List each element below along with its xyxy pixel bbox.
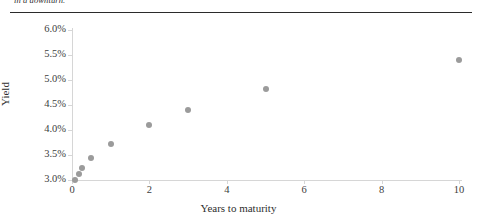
x-tick-label: 10: [439, 184, 477, 195]
y-tick-label: 3.0%: [22, 173, 66, 184]
scatter-chart: 3.0%3.5%4.0%4.5%5.0%5.5%6.0% 0246810 Yie…: [0, 0, 477, 220]
y-tick-label: 5.0%: [22, 73, 66, 84]
data-point: [79, 165, 85, 171]
data-point: [76, 171, 82, 177]
x-tick-label: 0: [52, 184, 92, 195]
x-axis-title: Years to maturity: [0, 202, 477, 214]
data-point: [185, 107, 191, 113]
y-tick-label: 3.5%: [22, 148, 66, 159]
y-tick-label: 4.5%: [22, 98, 66, 109]
data-point: [146, 122, 152, 128]
x-tick-label: 6: [284, 184, 324, 195]
y-tick-mark: [68, 55, 72, 56]
data-point: [72, 177, 78, 183]
x-tick-label: 8: [362, 184, 402, 195]
y-tick-mark: [68, 30, 72, 31]
data-point: [88, 155, 94, 161]
y-axis-title: Yield: [0, 82, 11, 106]
y-axis-line: [72, 28, 73, 181]
data-point: [263, 86, 269, 92]
y-tick-mark: [68, 130, 72, 131]
y-tick-label: 6.0%: [22, 23, 66, 34]
x-tick-label: 4: [207, 184, 247, 195]
y-tick-label: 5.5%: [22, 48, 66, 59]
data-point: [456, 57, 462, 63]
x-axis-line: [72, 180, 462, 181]
y-tick-label: 4.0%: [22, 123, 66, 134]
y-tick-mark: [68, 155, 72, 156]
data-point: [108, 141, 114, 147]
y-tick-mark: [68, 80, 72, 81]
x-tick-label: 2: [129, 184, 169, 195]
y-tick-mark: [68, 105, 72, 106]
figure-page: in a downturn. 3.0%3.5%4.0%4.5%5.0%5.5%6…: [0, 0, 477, 220]
